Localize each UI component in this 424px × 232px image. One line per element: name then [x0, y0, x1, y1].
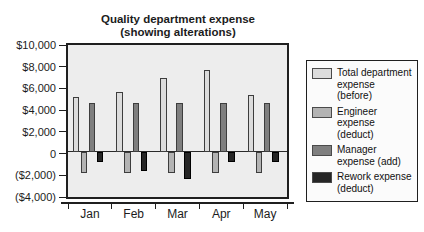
- bar-jan-s2: [89, 103, 96, 152]
- chart-title-line1: Quality department expense: [58, 13, 298, 26]
- legend-item: Manager expense (add): [312, 144, 412, 167]
- legend-swatch: [312, 107, 332, 118]
- y-tick-mark: [59, 175, 66, 176]
- y-tick-mark: [59, 110, 66, 111]
- bar-mar-s0: [160, 78, 167, 152]
- bar-jan-s3: [97, 152, 104, 163]
- bar-apr-s2: [220, 103, 227, 152]
- bar-feb-s2: [133, 103, 140, 152]
- bar-apr-s3: [228, 152, 235, 163]
- bar-mar-s2: [176, 103, 183, 152]
- bar-apr-s0: [204, 70, 211, 151]
- y-tick-mark: [59, 45, 66, 46]
- bar-feb-s0: [116, 92, 123, 152]
- bar-jan-s0: [73, 97, 80, 151]
- y-tick-label: 0: [0, 147, 56, 161]
- legend-item: Total department expense (before): [312, 67, 412, 102]
- month-label-feb: Feb: [112, 207, 156, 221]
- legend-item: Rework expense (deduct): [312, 171, 412, 194]
- plot-area: [66, 43, 289, 199]
- y-tick-mark: [59, 153, 66, 154]
- y-tick-mark: [59, 131, 66, 132]
- month-label-jan: Jan: [68, 207, 112, 221]
- chart-title-line2: (showing alterations): [58, 26, 298, 39]
- y-tick-label: $2,000: [0, 125, 56, 139]
- y-tick-label: ($2,000): [0, 168, 56, 182]
- bar-mar-s1: [168, 152, 175, 174]
- legend-label: Rework expense (deduct): [337, 171, 412, 194]
- bar-may-s0: [248, 95, 255, 151]
- y-tick-label: $8,000: [0, 60, 56, 74]
- bar-feb-s1: [124, 152, 131, 174]
- chart-title: Quality department expense (showing alte…: [58, 13, 298, 38]
- y-tick-mark: [59, 66, 66, 67]
- bar-may-s1: [256, 152, 263, 174]
- legend-label: Total department expense (before): [337, 67, 412, 102]
- legend-swatch: [312, 145, 332, 156]
- y-tick-mark: [59, 197, 66, 198]
- bar-jan-s1: [81, 152, 88, 174]
- y-tick-label: $6,000: [0, 81, 56, 95]
- legend-swatch: [312, 172, 332, 183]
- y-tick-mark: [59, 88, 66, 89]
- legend-label: Engineer expense (deduct): [337, 106, 412, 141]
- y-tick-label: $10,000: [0, 38, 56, 52]
- month-label-may: May: [243, 207, 287, 221]
- x-axis-line: [61, 202, 294, 204]
- legend-item: Engineer expense (deduct): [312, 106, 412, 141]
- bar-feb-s3: [141, 152, 148, 172]
- legend-label: Manager expense (add): [337, 144, 412, 167]
- bar-mar-s3: [184, 152, 191, 179]
- bar-may-s2: [264, 103, 271, 152]
- y-tick-label: $4,000: [0, 103, 56, 117]
- month-label-mar: Mar: [156, 207, 200, 221]
- chart-figure: Quality department expense (showing alte…: [0, 0, 424, 232]
- legend-swatch: [312, 68, 332, 79]
- bar-may-s3: [272, 152, 279, 163]
- bar-apr-s1: [212, 152, 219, 174]
- y-tick-label: ($4,000): [0, 190, 56, 204]
- month-label-apr: Apr: [199, 207, 243, 221]
- legend: Total department expense (before)Enginee…: [306, 60, 418, 202]
